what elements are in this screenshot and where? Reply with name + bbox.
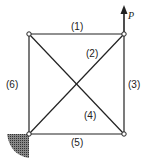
member-label-6: (6) (6, 79, 18, 90)
fixed-support (7, 134, 29, 158)
joint-top-right (122, 32, 126, 36)
joint-bottom-right (122, 132, 126, 136)
load-arrow-icon (121, 5, 128, 14)
member-label-1: (1) (71, 21, 83, 32)
load-label: P (127, 10, 134, 21)
member-label-3: (3) (128, 79, 140, 90)
joint-bottom-left (27, 132, 31, 136)
member-label-4: (4) (84, 110, 96, 121)
joint-top-left (27, 32, 31, 36)
truss-diagram: P (1) (2) (3) (4) (5) (6) (0, 0, 153, 164)
member-label-2: (2) (86, 48, 98, 59)
member-label-5: (5) (71, 137, 83, 148)
